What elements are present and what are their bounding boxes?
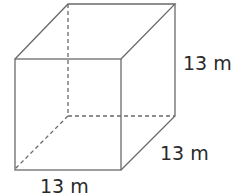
depth-label: 13 m — [160, 142, 209, 164]
cube-diagram: 13 m 13 m 13 m — [0, 0, 242, 195]
height-label: 13 m — [183, 52, 232, 74]
width-label: 13 m — [40, 175, 89, 195]
top-face — [15, 4, 175, 59]
